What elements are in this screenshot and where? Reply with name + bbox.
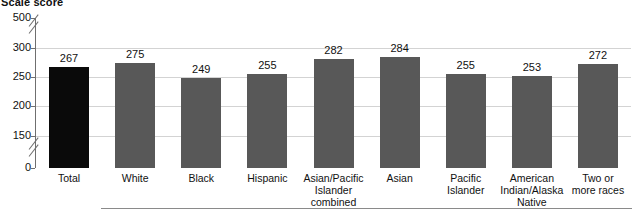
x-axis-label-line: Islander [433, 184, 499, 196]
bar-chart: Scale score 5003002502001500 TotalWhiteB… [0, 0, 634, 220]
x-axis-label: AmericanIndian/AlaskaNative [499, 172, 565, 208]
x-axis-label: Black [168, 172, 234, 184]
y-tick-mark [31, 18, 35, 19]
bar [49, 67, 89, 168]
x-axis-label-line: more races [565, 184, 631, 196]
y-tick-label: 200 [0, 100, 31, 111]
bar [314, 59, 354, 168]
y-tick-mark [31, 106, 35, 107]
bar [380, 57, 420, 168]
bar-value-label: 284 [370, 43, 430, 54]
y-tick-mark [31, 48, 35, 49]
x-axis-label-line: combined [300, 196, 366, 208]
x-axis-label: Two ormore races [565, 172, 631, 196]
x-axis-label-line: Pacific [433, 172, 499, 184]
x-axis-label-line: Native [499, 196, 565, 208]
bar-value-label: 282 [304, 45, 364, 56]
x-axis-label-line: Hispanic [234, 172, 300, 184]
x-axis-label-line: White [102, 172, 168, 184]
x-axis-label-line: Islander [300, 184, 366, 196]
x-axis-label: Asian [367, 172, 433, 184]
bar-value-label: 249 [171, 64, 231, 75]
x-axis-label-line: Indian/Alaska [499, 184, 565, 196]
bar-value-label: 255 [436, 60, 496, 71]
bar [247, 74, 287, 168]
chart-title: Scale score [1, 0, 63, 8]
footer-rule [101, 208, 632, 209]
plot-area [36, 18, 631, 168]
y-tick-label: 150 [0, 130, 31, 141]
bar [578, 64, 618, 168]
y-tick-mark [31, 136, 35, 137]
bar-value-label: 267 [39, 53, 99, 64]
bar [446, 74, 486, 168]
bar [115, 63, 155, 168]
bar-value-label: 255 [237, 60, 297, 71]
x-axis-label-line: Two or [565, 172, 631, 184]
x-axis-label-line: Black [168, 172, 234, 184]
x-axis-label: Total [36, 172, 102, 184]
y-tick-label: 300 [0, 42, 31, 53]
y-tick-label: 250 [0, 71, 31, 82]
x-axis-label: White [102, 172, 168, 184]
bar [181, 78, 221, 168]
bar-value-label: 253 [502, 62, 562, 73]
x-axis-label-line: Asian [367, 172, 433, 184]
x-axis-label: Hispanic [234, 172, 300, 184]
bar [512, 76, 552, 168]
bar-value-label: 272 [568, 50, 628, 61]
y-tick-mark [31, 168, 35, 169]
y-tick-label: 500 [0, 12, 31, 23]
x-axis-label: Asian/PacificIslandercombined [300, 172, 366, 208]
x-axis-label-line: Total [36, 172, 102, 184]
y-tick-mark [31, 77, 35, 78]
y-tick-label: 0 [0, 162, 31, 173]
x-axis-label-line: Asian/Pacific [300, 172, 366, 184]
x-axis-label: PacificIslander [433, 172, 499, 196]
x-axis-label-line: American [499, 172, 565, 184]
bar-value-label: 275 [105, 49, 165, 60]
